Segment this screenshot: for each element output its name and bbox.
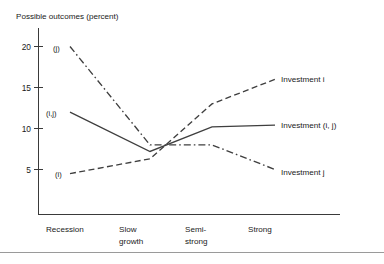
chart-figure: Possible outcomes (percent) 20 15 10 5 R… <box>0 0 384 264</box>
legend-label-investment-i: Investment i <box>281 75 325 84</box>
legend-label-investment-j: Investment j <box>281 168 325 177</box>
y-tick-label-10: 10 <box>22 124 32 134</box>
legend-label-investment-ij: Investment (i, j) <box>281 121 337 130</box>
y-tick-label-5: 5 <box>26 165 31 175</box>
bottom-divider <box>0 252 384 253</box>
series-line-investment-ij <box>70 112 275 151</box>
x-category-semi-strong-line2: strong <box>185 237 208 246</box>
inline-label-i: (i) <box>55 170 62 179</box>
x-category-semi-strong-line1: Semi- <box>185 225 206 234</box>
x-category-slow-growth-line1: Slow <box>119 225 137 234</box>
x-category-strong: Strong <box>248 225 272 234</box>
inline-label-ij: (i,j) <box>46 109 57 118</box>
series-line-investment-j <box>70 47 275 170</box>
y-tick-label-15: 15 <box>22 83 32 93</box>
chart-title: Possible outcomes (percent) <box>16 12 119 21</box>
chart-svg: Possible outcomes (percent) 20 15 10 5 R… <box>0 0 384 264</box>
x-category-slow-growth-line2: growth <box>119 237 143 246</box>
y-tick-label-20: 20 <box>22 42 32 52</box>
inline-label-j: (j) <box>53 44 60 53</box>
x-category-recession: Recession <box>46 225 84 234</box>
